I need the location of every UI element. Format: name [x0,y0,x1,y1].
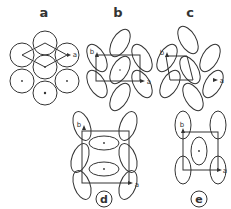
panel-b-axis-b: b [90,49,94,56]
panel-c-ellipses [153,23,228,114]
panel-c-axis-a: a [220,78,224,85]
panel-e-axis-b: b [180,122,184,129]
panel-a-axis-a: a [73,52,77,59]
panel-c-label: c [186,6,194,19]
panel-d-label: d [96,191,113,208]
panel-e-label: e [191,191,208,208]
panel-a-label: a [40,6,49,19]
lattice-diagram [0,0,231,209]
panel-e-axis-a: a [223,168,227,175]
panel-b-label: b [113,6,122,19]
panel-c-axis-b: b [160,50,164,57]
panel-d-axis-a: a [135,182,139,189]
panel-b-axis-a: a [147,79,151,86]
panel-d-axis-b: b [77,122,81,129]
